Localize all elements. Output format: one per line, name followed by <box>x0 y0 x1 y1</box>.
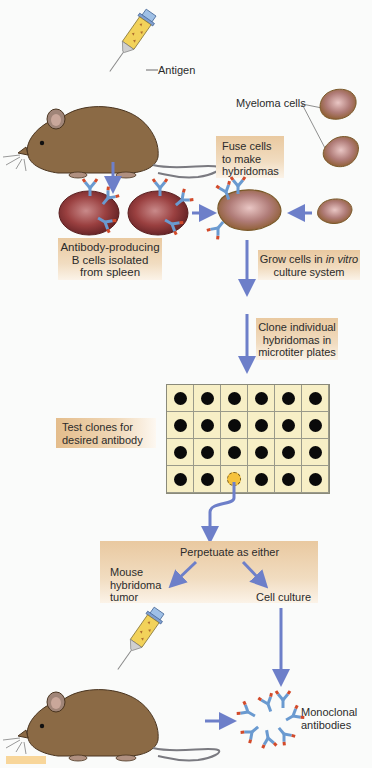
figure-caption-fragment <box>6 756 46 764</box>
monoclonal-antibodies-label: Monoclonal antibodies <box>301 706 357 731</box>
